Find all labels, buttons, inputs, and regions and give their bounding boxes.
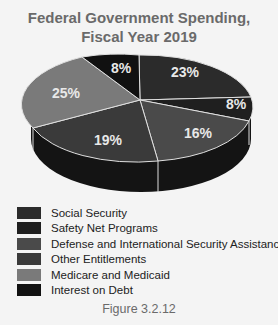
label-medicare: 25% [52, 85, 81, 101]
legend-item-medicare: Medicare and Medicaid [17, 267, 278, 283]
legend-label: Defense and International Security Assis… [51, 238, 278, 250]
legend-item-other-entitlements: Other Entitlements [17, 252, 278, 268]
legend-label: Other Entitlements [51, 253, 146, 265]
legend-label: Social Security [51, 207, 127, 219]
label-safety-net: 8% [226, 96, 247, 112]
legend-swatch [17, 207, 41, 219]
legend-swatch [17, 269, 41, 281]
legend-item-social-security: Social Security [17, 205, 278, 221]
label-defense: 16% [184, 125, 213, 141]
legend: Social Security Safety Net Programs Defe… [17, 205, 278, 298]
legend-swatch [17, 238, 41, 250]
legend-label: Safety Net Programs [51, 222, 158, 234]
label-other-entitlements: 19% [94, 132, 123, 148]
legend-item-interest: Interest on Debt [17, 283, 278, 299]
legend-swatch [17, 253, 41, 265]
legend-label: Interest on Debt [51, 284, 133, 296]
legend-item-safety-net: Safety Net Programs [17, 221, 278, 237]
legend-item-defense: Defense and International Security Assis… [17, 236, 278, 252]
figure-caption: Figure 3.2.12 [0, 302, 278, 316]
legend-swatch [17, 284, 41, 296]
label-social-security: 23% [171, 64, 200, 80]
legend-label: Medicare and Medicaid [51, 269, 170, 281]
legend-swatch [17, 222, 41, 234]
label-interest: 8% [111, 60, 132, 76]
